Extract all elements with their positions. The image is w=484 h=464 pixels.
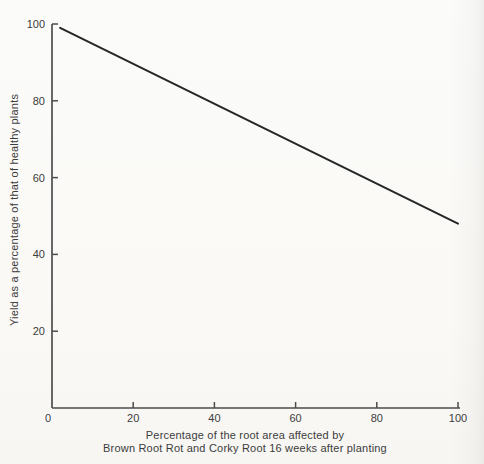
x-axis-title-line-2: Brown Root Rot and Corky Root 16 weeks a…: [30, 442, 460, 455]
y-tick-label: 100: [27, 18, 45, 30]
x-tick-label: 40: [208, 412, 220, 424]
chart-canvas: 20406080100020406080100: [0, 0, 484, 464]
root-rot-yield-chart: 20406080100020406080100 Yield as a perce…: [0, 0, 484, 464]
y-tick-label: 40: [33, 248, 45, 260]
data-line: [60, 28, 458, 224]
y-axis-title: Yield as a percentage of that of healthy…: [8, 94, 20, 326]
x-tick-label: 80: [371, 412, 383, 424]
x-axis-title-line-1: Percentage of the root area affected by: [30, 429, 460, 442]
x-tick-label: 100: [449, 412, 467, 424]
x-tick-label: 0: [45, 412, 51, 424]
x-axis-title: Percentage of the root area affected by …: [30, 429, 460, 455]
x-tick-label: 20: [127, 412, 139, 424]
y-tick-label: 20: [33, 325, 45, 337]
x-tick-label: 60: [289, 412, 301, 424]
y-tick-label: 80: [33, 95, 45, 107]
y-tick-label: 60: [33, 172, 45, 184]
